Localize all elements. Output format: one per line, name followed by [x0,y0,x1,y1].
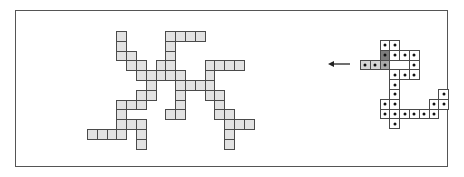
dot-icon [393,83,396,86]
dot-icon [383,54,386,57]
dot-icon [393,44,396,47]
dot-icon [383,44,386,47]
dotted-cell [409,69,420,80]
dot-icon [383,112,386,115]
dot-icon [413,73,416,76]
dot-icon [383,63,386,66]
arrow-left-icon [328,60,350,68]
dotted-cell [438,99,449,110]
grid-cell [146,90,157,101]
grid-cell [244,119,255,130]
dot-icon [432,103,435,106]
grid-cell [136,139,147,150]
dot-icon [383,103,386,106]
dot-icon [403,112,406,115]
dot-icon [432,112,435,115]
dotted-cell [389,118,400,129]
dot-icon [423,112,426,115]
dot-icon [393,122,396,125]
dot-icon [413,63,416,66]
dotted-cell [429,109,440,120]
dot-icon [393,54,396,57]
dot-icon [442,103,445,106]
dot-icon [393,103,396,106]
grid-cell [195,31,206,42]
grid-cell [136,100,147,111]
dot-icon [364,63,367,66]
grid-cell [116,129,127,140]
dot-icon [413,54,416,57]
dot-icon [403,73,406,76]
dot-icon [374,63,377,66]
grid-cell [234,60,245,71]
grid-cell [175,109,186,120]
grid-cell [224,139,235,150]
dot-icon [403,54,406,57]
dot-icon [393,73,396,76]
dot-icon [393,112,396,115]
dot-icon [393,93,396,96]
dot-icon [413,112,416,115]
dot-icon [442,93,445,96]
